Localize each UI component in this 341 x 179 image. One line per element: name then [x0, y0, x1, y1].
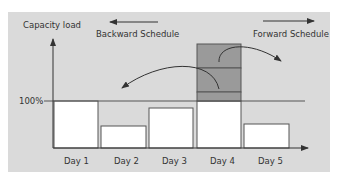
x-label-day-3: Day 3 — [162, 156, 187, 166]
x-label-day-1: Day 1 — [64, 156, 89, 166]
capacity-100-label: 100% — [19, 96, 43, 106]
bar-day-5 — [244, 124, 289, 148]
backward-schedule-label: Backward Schedule — [96, 29, 179, 39]
x-label-day-5: Day 5 — [258, 156, 283, 166]
x-label-day-4: Day 4 — [210, 156, 235, 166]
overload-block-bottom — [197, 92, 241, 101]
bars — [54, 44, 289, 148]
bar-day-3 — [149, 108, 193, 148]
forward-schedule-label: Forward Schedule — [253, 29, 329, 39]
bar-day-2 — [101, 126, 146, 148]
y-axis-label: Capacity load — [23, 20, 81, 30]
bar-day-1 — [54, 101, 98, 148]
x-label-day-2: Day 2 — [114, 156, 139, 166]
bar-day-4 — [197, 101, 241, 148]
